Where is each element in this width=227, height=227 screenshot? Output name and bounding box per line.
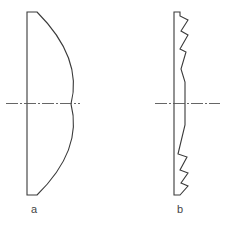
lens-diagram: a b: [0, 0, 227, 227]
plano-convex-lens: a: [6, 12, 80, 215]
label-a: a: [31, 203, 38, 215]
fresnel-lens: b: [155, 12, 220, 215]
label-b: b: [177, 203, 183, 215]
